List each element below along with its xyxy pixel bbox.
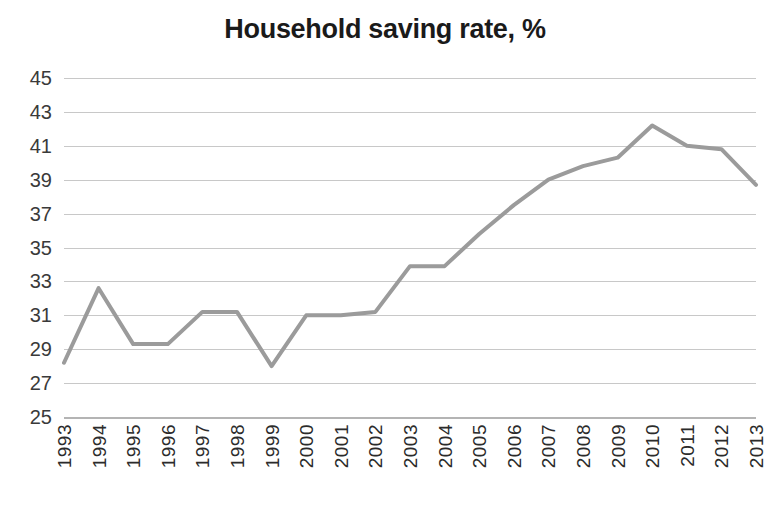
x-tick-label-1996: 1996 (158, 424, 180, 468)
plot-area (64, 78, 756, 417)
y-tick-label-29: 29 (30, 338, 52, 361)
x-tick-label-2009: 2009 (608, 424, 630, 468)
data-series-line (64, 78, 756, 417)
chart-title: Household saving rate, % (0, 14, 770, 45)
y-tick-label-31: 31 (30, 304, 52, 327)
y-tick-label-37: 37 (30, 202, 52, 225)
y-tick-label-35: 35 (30, 236, 52, 259)
y-tick-label-27: 27 (30, 372, 52, 395)
x-tick-label-2005: 2005 (469, 424, 491, 468)
y-tick-label-41: 41 (30, 134, 52, 157)
y-tick-label-39: 39 (30, 168, 52, 191)
x-tick-label-2007: 2007 (538, 424, 560, 468)
x-tick-label-2008: 2008 (573, 424, 595, 468)
x-tick-label-1993: 1993 (54, 424, 76, 468)
x-tick-label-1994: 1994 (89, 424, 111, 468)
x-tick-label-2010: 2010 (642, 424, 664, 468)
household-saving-rate-line (64, 125, 756, 366)
y-tick-label-33: 33 (30, 270, 52, 293)
x-tick-label-2001: 2001 (331, 424, 353, 468)
x-tick-label-2002: 2002 (365, 424, 387, 468)
gridline-25 (64, 417, 756, 419)
x-tick-label-2006: 2006 (504, 424, 526, 468)
x-tick-label-2011: 2011 (677, 424, 699, 467)
x-tick-label-1998: 1998 (227, 424, 249, 468)
x-tick-label-2012: 2012 (711, 424, 733, 468)
x-tick-label-1999: 1999 (262, 424, 284, 468)
y-tick-label-45: 45 (30, 67, 52, 90)
x-tick-label-2003: 2003 (400, 424, 422, 468)
chart-container: Household saving rate, % 454341393735333… (0, 0, 770, 511)
x-tick-label-1995: 1995 (123, 424, 145, 468)
y-axis-tick-labels: 4543413937353331292725 (0, 78, 60, 417)
x-tick-label-2000: 2000 (296, 424, 318, 468)
x-tick-label-2004: 2004 (435, 424, 457, 468)
x-tick-label-2013: 2013 (746, 424, 768, 468)
y-tick-label-43: 43 (30, 100, 52, 123)
y-tick-label-25: 25 (30, 406, 52, 429)
x-tick-label-1997: 1997 (192, 424, 214, 468)
x-axis-tick-labels: 1993199419951996199719981999200020012002… (64, 424, 756, 510)
